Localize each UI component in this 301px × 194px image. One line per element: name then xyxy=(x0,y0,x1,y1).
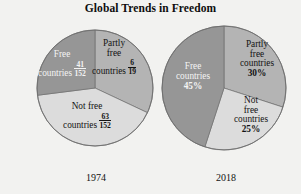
pie-chart-1974: Free countries 41 152 Partly free countr… xyxy=(30,24,162,194)
pie-chart-2018: Free countries 45% Partly free countries… xyxy=(156,22,296,194)
freedom-trends-figure: Global Trends in Freedom Free countries … xyxy=(0,0,301,194)
year-caption-2018: 2018 xyxy=(156,172,296,183)
year-caption-1974: 1974 xyxy=(30,172,162,183)
page-title: Global Trends in Freedom xyxy=(0,2,301,14)
pie-1974-svg xyxy=(30,24,162,164)
pie-slice-free xyxy=(37,30,95,95)
pie-2018-svg xyxy=(156,22,296,164)
